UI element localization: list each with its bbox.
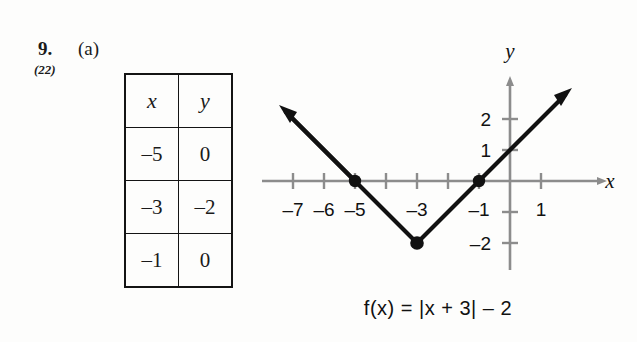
column-header-x: x — [125, 74, 179, 128]
graph-canvas: x y –7 –6 –5 –3 –1 1 2 1 –2 — [245, 28, 637, 298]
cell-x: –1 — [125, 234, 179, 288]
cell-x: –3 — [125, 181, 179, 234]
x-tick-label-neg3: –3 — [406, 199, 427, 220]
problem-part-label: (a) — [78, 38, 99, 60]
cell-y: –2 — [179, 181, 233, 234]
problem-number: 9. — [38, 38, 52, 60]
xy-value-table: x y –5 0 –3 –2 –1 0 — [124, 73, 233, 288]
cell-x: –5 — [125, 128, 179, 181]
table-header-row: x y — [125, 74, 232, 128]
point-marker — [349, 175, 361, 187]
absolute-value-graph: x y –7 –6 –5 –3 –1 1 2 1 –2 — [245, 28, 637, 298]
point-marker — [410, 236, 424, 250]
x-tick-label-neg7: –7 — [282, 199, 303, 220]
problem-reference: (22) — [34, 62, 56, 78]
worksheet-problem-page: 9. (a) (22) x y –5 0 –3 –2 –1 0 — [0, 0, 637, 342]
column-header-y: y — [179, 74, 233, 128]
cell-y: 0 — [179, 128, 233, 181]
y-axis-label: y — [503, 39, 515, 63]
y-tick-label-pos1: 1 — [480, 140, 491, 161]
table-row: –5 0 — [125, 128, 232, 181]
y-tick-label-pos2: 2 — [480, 109, 491, 130]
point-marker — [473, 175, 485, 187]
table-row: –1 0 — [125, 234, 232, 288]
function-formula: f(x) = |x + 3| – 2 — [288, 297, 588, 320]
x-tick-label-neg5: –5 — [344, 199, 365, 220]
table-row: –3 –2 — [125, 181, 232, 234]
x-tick-label-pos1: 1 — [536, 199, 547, 220]
cell-y: 0 — [179, 234, 233, 288]
x-tick-label-neg1: –1 — [468, 199, 489, 220]
x-axis-label: x — [604, 169, 615, 193]
x-tick-label-neg6: –6 — [313, 199, 334, 220]
y-tick-label-neg2: –2 — [470, 233, 491, 254]
